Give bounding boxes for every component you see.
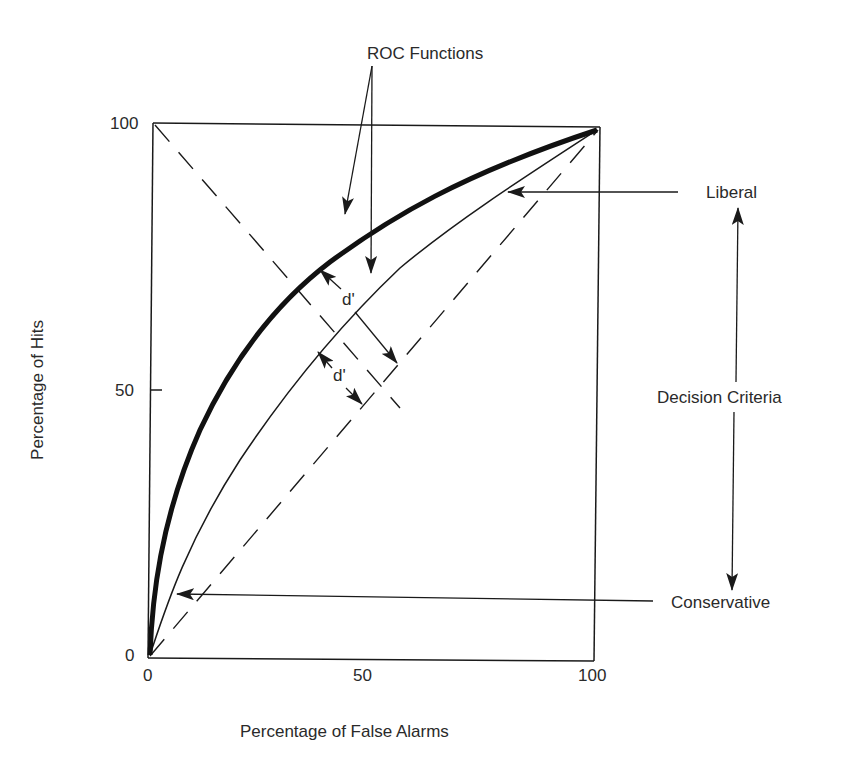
y-tick-50: 50 bbox=[115, 382, 134, 399]
x-tick-0: 0 bbox=[143, 667, 152, 684]
x-tick-50: 50 bbox=[353, 667, 372, 684]
roc-curve-thick bbox=[150, 130, 597, 655]
roc-functions-arrow-2 bbox=[371, 66, 372, 273]
liberal-label: Liberal bbox=[706, 184, 757, 201]
y-axis-label: Percentage of Hits bbox=[29, 320, 46, 460]
roc-functions-arrow-1 bbox=[345, 66, 372, 214]
roc-functions-label: ROC Functions bbox=[367, 45, 483, 62]
negative-diagonal bbox=[155, 125, 400, 408]
d-prime-lower-arrow-down bbox=[346, 388, 362, 404]
roc-diagram: ROC Functions 100 50 0 0 50 100 Percenta… bbox=[0, 0, 857, 757]
d-prime-lower-arrow-up bbox=[318, 352, 332, 368]
plot-frame bbox=[148, 123, 600, 661]
decision-criteria-label: Decision Criteria bbox=[657, 389, 782, 406]
y-tick-100: 100 bbox=[110, 115, 138, 132]
decision-criteria-arrow-down bbox=[732, 412, 734, 590]
x-axis-label: Percentage of False Alarms bbox=[240, 723, 449, 740]
y-tick-0: 0 bbox=[125, 647, 134, 664]
conservative-arrow bbox=[177, 594, 653, 601]
x-tick-100: 100 bbox=[578, 667, 606, 684]
decision-criteria-arrow-up bbox=[736, 208, 738, 382]
d-prime-upper-arrow-down bbox=[355, 312, 397, 363]
d-prime-lower-label: d' bbox=[333, 367, 346, 384]
d-prime-upper-label: d' bbox=[342, 291, 355, 308]
d-prime-upper-arrow-up bbox=[320, 270, 341, 289]
conservative-label: Conservative bbox=[671, 594, 770, 611]
